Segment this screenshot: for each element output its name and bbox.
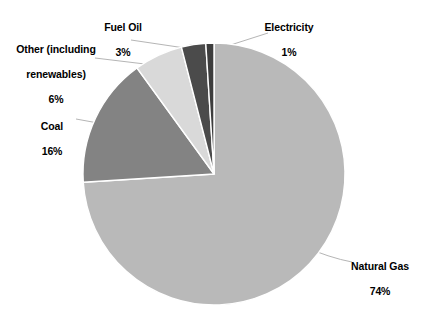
- pie-label-natural-gas-name: Natural Gas: [340, 260, 420, 273]
- pie-label-coal-value: 16%: [16, 145, 88, 158]
- pie-label-coal-name: Coal: [16, 120, 88, 133]
- pie-label-electricity-name: Electricity: [248, 21, 330, 34]
- pie-label-other-name-line2: renewables): [4, 68, 108, 81]
- pie-label-electricity-value: 1%: [248, 46, 330, 59]
- pie-label-other: Other (including renewables) 6%: [4, 30, 108, 118]
- pie-label-natural-gas: Natural Gas 74%: [340, 247, 420, 310]
- pie-label-other-name-line1: Other (including: [4, 43, 108, 56]
- pie-label-other-value: 6%: [4, 93, 108, 106]
- pie-label-electricity: Electricity 1%: [248, 8, 330, 71]
- pie-chart: Fuel Oil 3% Electricity 1% Other (includ…: [0, 0, 423, 317]
- pie-label-natural-gas-value: 74%: [340, 285, 420, 298]
- pie-slices: [83, 43, 345, 305]
- pie-label-coal: Coal 16%: [16, 107, 88, 170]
